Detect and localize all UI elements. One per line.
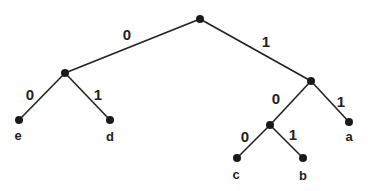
- leaf-node-e: [15, 116, 23, 124]
- leaf-label-c: c: [232, 167, 239, 182]
- edge-n0-to-d: [65, 73, 110, 120]
- edge-label-n1-n10: 0: [272, 90, 280, 107]
- internal-node-0: [61, 69, 69, 77]
- leaf-node-c: [233, 154, 241, 162]
- edge-label-n0-e: 0: [26, 86, 34, 103]
- edge-label-n10-c: 0: [241, 128, 249, 145]
- leaf-node-b: [299, 154, 307, 162]
- internal-node-10: [266, 121, 274, 129]
- leaf-label-e: e: [14, 128, 21, 143]
- edge-label-root-n0: 0: [123, 26, 131, 43]
- edge-n10-to-b: [270, 125, 303, 158]
- edge-label-n1-a: 1: [337, 93, 345, 110]
- edge-label-root-n1: 1: [262, 33, 270, 50]
- edge-label-n0-d: 1: [94, 86, 102, 103]
- edge-root-to-n1: [200, 19, 311, 81]
- leaf-node-d: [106, 116, 114, 124]
- root-node: [196, 15, 204, 23]
- leaf-label-d: d: [106, 129, 114, 144]
- edge-root-to-n0: [65, 19, 200, 73]
- leaf-label-b: b: [299, 168, 307, 183]
- leaf-label-a: a: [345, 129, 353, 144]
- leaf-node-a: [345, 118, 353, 126]
- code-tree-diagram: 0 1 0 1 0 1 0 1 e d a c b: [0, 0, 368, 191]
- internal-node-1: [307, 77, 315, 85]
- edge-label-n10-b: 1: [289, 126, 297, 143]
